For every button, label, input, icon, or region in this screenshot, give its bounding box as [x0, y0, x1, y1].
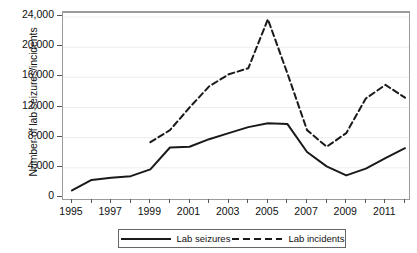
x-tick-mark — [247, 199, 248, 203]
legend-label-lab-incidents: Lab incidents — [288, 233, 344, 244]
x-tick-mark — [169, 199, 170, 203]
plot-area — [62, 11, 410, 200]
x-tick-mark — [365, 199, 366, 203]
x-tick-mark — [286, 199, 287, 203]
y-tick-label: 4,000 — [0, 159, 54, 171]
y-tick-label: 12,000 — [0, 99, 54, 111]
x-tick-label: 2009 — [325, 205, 365, 217]
legend-label-lab-seizures: Lab seizures — [177, 233, 231, 244]
x-tick-mark — [71, 199, 72, 203]
x-tick-label: 2001 — [169, 205, 209, 217]
x-tick-mark — [189, 199, 190, 203]
x-tick-label: 1999 — [129, 205, 169, 217]
y-tick-label: 0 — [0, 189, 54, 201]
legend-item-lab-seizures[interactable]: Lab seizures — [120, 233, 231, 244]
x-tick-label: 1995 — [51, 205, 91, 217]
line-chart-figure: Number of lab seizures/incidents 04,0008… — [0, 0, 417, 253]
x-tick-mark — [306, 199, 307, 203]
x-tick-mark — [384, 199, 385, 203]
x-tick-mark — [149, 199, 150, 203]
x-tick-label: 2005 — [247, 205, 287, 217]
series-line-lab-seizures — [72, 123, 405, 190]
x-tick-mark — [91, 199, 92, 203]
gridlines — [63, 17, 409, 168]
x-tick-mark — [130, 199, 131, 203]
y-tick-label: 8,000 — [0, 129, 54, 141]
x-tick-label: 2011 — [364, 205, 404, 217]
x-tick-mark — [345, 199, 346, 203]
x-tick-mark — [267, 199, 268, 203]
x-tick-label: 2007 — [286, 205, 326, 217]
chart-legend: Lab seizures Lab incidents — [118, 229, 346, 248]
x-tick-label: 1997 — [90, 205, 130, 217]
x-tick-label: 2003 — [208, 205, 248, 217]
x-tick-mark — [326, 199, 327, 203]
series-layer — [72, 19, 405, 190]
x-tick-mark — [208, 199, 209, 203]
series-line-lab-incidents — [150, 19, 405, 146]
y-tick-label: 20,000 — [0, 38, 54, 50]
legend-swatch-solid — [120, 234, 172, 244]
x-tick-mark — [404, 199, 405, 203]
y-tick-label: 24,000 — [0, 8, 54, 20]
y-tick-label: 16,000 — [0, 68, 54, 80]
legend-swatch-dashed — [231, 234, 283, 244]
x-tick-mark — [228, 199, 229, 203]
x-tick-mark — [110, 199, 111, 203]
plot-svg — [63, 13, 409, 200]
legend-item-lab-incidents[interactable]: Lab incidents — [231, 233, 344, 244]
